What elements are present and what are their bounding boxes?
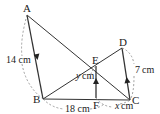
point-label-b: B (33, 93, 40, 105)
geometry-diagram: A B C D E F 14 cm 18 cm 7 cm y cm x cm (0, 0, 160, 114)
segment-ac (27, 15, 130, 100)
measure-dc-unit: cm (142, 64, 154, 75)
measure-fc-var: x (114, 100, 120, 111)
measure-ef-unit: cm (82, 70, 94, 81)
arc-bc (43, 99, 64, 109)
measure-ef-var: y (75, 70, 81, 81)
point-label-e: E (92, 54, 99, 66)
point-label-a: A (23, 2, 31, 14)
point-label-f: F (93, 99, 99, 111)
arc-ab (22, 15, 27, 56)
measure-bc: 18 cm (65, 103, 90, 114)
segment-dc (122, 48, 130, 100)
segments (27, 15, 130, 100)
point-label-d: D (119, 36, 127, 48)
measure-ab: 14 cm (6, 54, 31, 65)
measure-dc-value: 7 (135, 64, 140, 75)
measure-fc-unit: cm (121, 100, 133, 111)
